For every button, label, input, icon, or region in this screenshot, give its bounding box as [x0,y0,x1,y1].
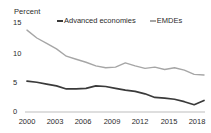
x-axis-tick-label: 2000 [14,118,40,126]
x-axis-tick-label: 2018 [184,118,210,126]
x-axis-tick-label: 2006 [70,118,96,126]
x-axis-tick-label: 2003 [42,118,68,126]
x-axis-tick-label: 2015 [156,118,182,126]
x-axis-tick-label: 2009 [99,118,125,126]
chart-container: Percent 15 10 5 0 Advanced economies EMD… [0,0,211,133]
data-line-advanced-economies [27,81,204,105]
plot-area [0,0,211,133]
x-axis-tick-label: 2012 [127,118,153,126]
data-line-emdes [27,30,204,75]
